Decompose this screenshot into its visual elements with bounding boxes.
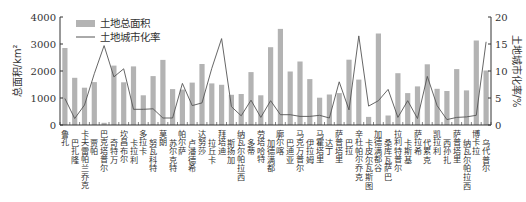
category-label: 马霍塔里 — [316, 129, 324, 165]
category-label: 多拉卡 — [139, 129, 147, 156]
category-label: 拉利特普尔 — [394, 129, 402, 173]
category-label: 达努莎 — [198, 129, 206, 156]
category-label: 加德满都 — [267, 138, 275, 174]
right-tick-label: 15 — [495, 39, 508, 50]
bar — [297, 62, 302, 126]
left-tick-label: 1000 — [31, 93, 56, 104]
category-label: 巴拉 — [345, 138, 353, 157]
category-label: 斯扬加 — [227, 138, 235, 165]
line-layer — [65, 36, 486, 120]
legend-line-label: 土地城市化率 — [100, 31, 160, 43]
category-label: 卡斯基 — [404, 138, 412, 165]
right-tick-label: 5 — [495, 93, 501, 104]
category-label: 卡夫雷帕兰乔克 — [81, 129, 89, 191]
category-label: 辛杜帕尔乔克 — [355, 129, 363, 182]
bar — [239, 94, 244, 125]
legend: 土地总面积 土地城市化率 — [76, 17, 160, 43]
bar — [386, 116, 391, 125]
bar — [425, 64, 430, 125]
bar — [131, 66, 136, 125]
bar — [248, 72, 253, 125]
bar — [356, 80, 361, 125]
category-label: 桑库瓦萨巴 — [384, 138, 392, 182]
right-axis-title: 土地城市化率/% — [511, 35, 523, 108]
bar — [366, 117, 371, 125]
legend-bar-swatch — [76, 20, 95, 27]
category-label: 萨普塔里 — [453, 129, 461, 165]
category-label: 纳瓦尔帕拉西 — [237, 129, 245, 182]
bar — [229, 95, 234, 125]
category-label: 伊拉姆 — [306, 138, 314, 165]
bar — [317, 98, 322, 125]
bar — [209, 83, 214, 125]
bar — [62, 48, 67, 125]
bar — [268, 47, 273, 125]
bar — [435, 89, 440, 125]
category-label: 奇特万 — [110, 138, 118, 165]
left-ticks: 01000200030004000 — [31, 12, 63, 131]
left-tick-label: 3000 — [31, 39, 56, 50]
category-label: 劳塔哈特 — [257, 129, 265, 165]
bar — [151, 76, 156, 125]
bar — [190, 83, 195, 125]
category-label: 廓尔喀 — [276, 129, 284, 156]
category-labels: 鲁孔巴扎隆卡夫雷帕兰乔克贾帕巴克塔普尔奇特万坎昌布尔卡拉利多拉卡努瓦科特莫朗苏尔… — [61, 129, 490, 191]
right-tick-label: 20 — [495, 12, 508, 23]
category-label: 贾帕 — [90, 138, 98, 157]
category-label: 纳瓦尔帕拉西 — [463, 138, 471, 191]
bar — [111, 66, 116, 125]
left-axis-title: 总面积/km² — [11, 45, 23, 98]
left-tick-label: 2000 — [31, 66, 56, 77]
bars-layer — [62, 29, 488, 125]
category-label: 巴克塔普尔 — [100, 129, 108, 173]
right-tick-label: 0 — [495, 120, 501, 131]
category-label: 卢潘德希 — [188, 138, 196, 174]
bar — [307, 79, 312, 125]
left-tick-label: 4000 — [31, 12, 56, 23]
bar — [454, 69, 459, 125]
category-label: 博卡拉 — [472, 129, 480, 156]
category-label: 鲁孔 — [61, 129, 69, 148]
bar — [199, 64, 204, 125]
category-label: 努瓦科特 — [149, 138, 157, 174]
bar — [180, 90, 185, 125]
category-label: 帕尔萨 — [178, 129, 186, 156]
bar — [141, 95, 146, 125]
category-label: 达丁 — [325, 138, 333, 157]
category-label: 马克万普尔 — [296, 129, 304, 173]
category-label: 坎昌布尔 — [120, 129, 128, 165]
left-tick-label: 0 — [50, 120, 56, 131]
category-label: 加德满都谷 — [374, 129, 382, 173]
right-tick-label: 10 — [495, 66, 508, 77]
category-label: 拉丘卡 — [208, 138, 216, 165]
category-label: 巴扎隆 — [71, 138, 79, 165]
category-label: 乌代普尔 — [482, 138, 490, 174]
category-label: 萨普塔里 — [335, 129, 343, 165]
bar — [484, 71, 489, 126]
category-label: 卡皮尔瓦斯图 — [365, 138, 373, 191]
category-label: 凯拉利 — [433, 129, 441, 156]
chart: 01000200030004000 05101520 鲁孔巴扎隆卡夫雷帕兰乔克贾… — [0, 0, 526, 202]
category-label: 卡拉利 — [130, 138, 138, 165]
legend-bar-label: 土地总面积 — [100, 17, 151, 29]
bar — [288, 72, 293, 126]
bar — [405, 93, 410, 125]
category-label: 拜塔迪 — [218, 129, 226, 156]
bar — [464, 90, 469, 125]
bar — [92, 82, 97, 125]
bar — [337, 93, 342, 125]
category-label: 巴迪亚 — [286, 138, 294, 165]
bar — [278, 29, 283, 125]
category-label: 莫朗 — [159, 129, 167, 148]
bar — [346, 60, 351, 125]
category-label: 代累克 — [423, 138, 431, 165]
urbanization-line — [65, 36, 486, 120]
category-label: 苏尔克特 — [169, 138, 177, 174]
bar — [219, 85, 224, 125]
category-label: 多蒂 — [247, 138, 255, 157]
category-label: 西孙扎 — [443, 138, 451, 165]
bar — [376, 34, 381, 126]
bar — [170, 89, 175, 125]
bar — [160, 60, 165, 125]
bar — [258, 95, 263, 125]
